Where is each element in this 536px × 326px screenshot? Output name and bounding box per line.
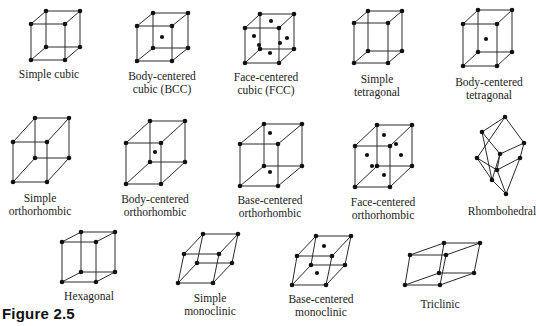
lattice-point: [309, 263, 314, 268]
lattice-point: [375, 164, 380, 169]
lattice-edge: [65, 11, 80, 24]
lattice-bcc: [135, 11, 191, 64]
lattice-edge: [390, 166, 412, 187]
lattice-point: [353, 185, 358, 190]
figure-caption: Figure 2.5: [2, 305, 75, 322]
lattice-point: [230, 261, 235, 266]
lattice-label-simple-tetragonal: Simpletetragonal: [354, 73, 400, 99]
lattice-edge: [126, 162, 150, 184]
lattice-edge: [178, 254, 184, 283]
lattice-label-bct: Body-centeredtetragonal: [455, 76, 523, 102]
lattice-point: [243, 61, 248, 66]
lattice-edge: [240, 166, 264, 186]
lattice-edge: [405, 255, 410, 285]
lattice-edge: [31, 47, 46, 60]
lattice-edge: [232, 234, 238, 263]
lattice-point: [79, 230, 84, 235]
lattice-point: [490, 178, 495, 183]
lattice-edge: [497, 52, 512, 66]
lattice-point: [518, 156, 523, 161]
lattice-edge: [184, 234, 203, 254]
lattice-point: [410, 164, 415, 169]
lattice-edge: [31, 11, 46, 24]
lattice-point: [461, 64, 466, 69]
lattice-edge: [161, 121, 185, 143]
lattice-edge: [326, 265, 345, 285]
lattice-point: [438, 283, 443, 288]
lattice-point: [159, 141, 164, 146]
lattice-edge: [355, 166, 377, 187]
lattice-edge: [446, 243, 480, 255]
lattice-point: [124, 141, 129, 146]
lattice-label-simple-cubic: Simple cubic: [19, 68, 79, 81]
lattice-edge: [13, 118, 35, 142]
label-line: tetragonal: [354, 86, 400, 99]
lattice-point: [476, 50, 481, 55]
lattice-point: [290, 283, 295, 288]
lattice-edge: [463, 52, 478, 66]
lattice-point: [480, 130, 485, 135]
lattice-edge: [240, 124, 264, 144]
lattice-point: [262, 122, 267, 127]
lattice-edge: [506, 158, 520, 194]
lattice-simple-tetragonal: [352, 9, 405, 66]
lattice-point: [386, 21, 391, 26]
lattice-edge: [477, 158, 497, 170]
lattice-edge: [332, 236, 351, 256]
lattice-point: [236, 232, 241, 237]
lattice-point: [159, 182, 164, 187]
lattice-point: [182, 252, 187, 257]
lattice-point: [269, 19, 273, 23]
lattice-edge: [197, 234, 203, 263]
lattice-point: [45, 140, 50, 145]
lattice-point: [238, 184, 243, 189]
lattice-point: [277, 61, 282, 66]
lattice-point: [295, 254, 300, 259]
lattice-point: [29, 22, 34, 27]
lattice-edge: [463, 10, 478, 24]
lattice-point: [268, 51, 272, 55]
label-line: tetragonal: [455, 89, 523, 102]
lattice-point: [67, 116, 72, 121]
lattice-triclinic: [403, 241, 483, 288]
lattice-edge: [65, 47, 80, 60]
lattice-point: [300, 164, 305, 169]
lattice-point: [276, 184, 281, 189]
lattice-edge: [405, 273, 439, 285]
label-line: Face-centered: [351, 196, 415, 209]
lattice-point: [352, 61, 357, 66]
lattice-point: [382, 133, 386, 137]
lattice-point: [170, 24, 175, 29]
lattice-base-centered-monoclinic: [290, 234, 354, 288]
lattice-point: [503, 115, 508, 120]
lattice-point: [135, 59, 140, 64]
lattice-point: [472, 271, 477, 276]
lattice-point: [442, 241, 447, 246]
lattice-point: [399, 153, 403, 157]
lattice-hexagonal: [60, 230, 118, 285]
label-line: Triclinic: [420, 298, 459, 311]
lattice-point: [124, 182, 129, 187]
lattice-point: [292, 47, 297, 52]
lattice-point: [315, 271, 319, 275]
lattice-point: [400, 49, 405, 54]
lattice-point: [148, 160, 153, 165]
lattice-label-simple-orthorhombic: Simpleorthorhombic: [9, 192, 72, 218]
lattice-point: [314, 234, 319, 239]
lattice-point: [44, 9, 49, 14]
label-line: orthorhombic: [351, 209, 415, 222]
lattice-edge: [345, 236, 351, 265]
lattice-edge: [388, 51, 402, 63]
lattice-label-body-centered-orthorhombic: Body-centeredorthorhombic: [121, 193, 189, 219]
lattice-edge: [474, 243, 480, 273]
lattice-point: [324, 283, 329, 288]
lattice-point: [94, 240, 99, 245]
lattice-point: [252, 34, 256, 38]
lattice-edge: [279, 49, 294, 63]
lattice-point: [44, 45, 49, 50]
lattice-point: [78, 9, 83, 14]
lattice-label-face-centered-orthorhombic: Face-centeredorthorhombic: [351, 196, 415, 222]
lattice-point: [238, 142, 243, 147]
lattice-edge: [355, 125, 377, 146]
